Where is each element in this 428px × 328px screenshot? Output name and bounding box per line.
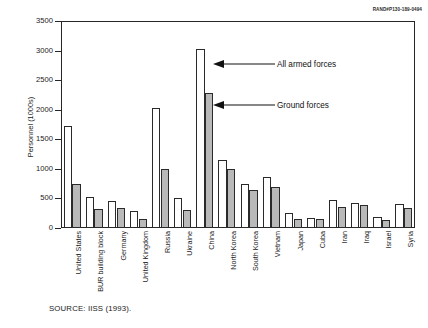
bar-ground-forces <box>271 187 279 228</box>
bar-all-armed-forces <box>64 126 72 228</box>
bar-ground-forces <box>205 93 213 228</box>
x-tick-label: United Kingdom <box>142 231 149 282</box>
y-tick-label: 3000 <box>36 47 53 55</box>
x-tick-label: China <box>208 231 215 250</box>
bar-ground-forces <box>139 219 147 228</box>
bar-ground-forces <box>183 210 191 228</box>
x-tick-label: Israel <box>385 231 392 249</box>
bar-group <box>285 21 302 228</box>
bar-ground-forces <box>382 220 390 228</box>
bar-group <box>395 21 412 228</box>
bar-all-armed-forces <box>351 203 359 228</box>
bar-ground-forces <box>404 208 412 228</box>
rand-document-id: RAND#P130-189-0494 <box>373 7 422 12</box>
bar-ground-forces <box>227 169 235 228</box>
x-tick-label: Syria <box>407 231 414 247</box>
x-axis-category-labels: United StatesBUR building blockGermanyUn… <box>61 231 415 301</box>
bar-group <box>130 21 147 228</box>
y-tick-label: 1500 <box>36 135 53 143</box>
bar-group <box>64 21 81 228</box>
bar-group <box>307 21 324 228</box>
annotation-ground-forces: Ground forces <box>277 101 329 110</box>
bar-all-armed-forces <box>395 204 403 228</box>
bar-all-armed-forces <box>218 160 226 228</box>
bar-ground-forces <box>316 219 324 228</box>
bar-ground-forces <box>161 169 169 228</box>
x-tick-label: South Korea <box>252 231 259 271</box>
bar-group <box>329 21 346 228</box>
y-tick-label: 1000 <box>36 165 53 173</box>
bar-all-armed-forces <box>285 213 293 228</box>
x-tick-label: Iran <box>341 231 348 243</box>
bar-all-armed-forces <box>307 218 315 228</box>
bar-all-armed-forces <box>196 49 204 228</box>
y-tick-label: 3500 <box>36 17 53 25</box>
bar-group <box>196 21 213 228</box>
bar-all-armed-forces <box>263 177 271 228</box>
x-tick-label: Japan <box>297 231 304 251</box>
bar-group <box>108 21 125 228</box>
bar-group <box>152 21 169 228</box>
bar-ground-forces <box>94 209 102 228</box>
bar-all-armed-forces <box>130 211 138 228</box>
bar-series-layer <box>61 21 415 228</box>
bar-group <box>373 21 390 228</box>
y-axis-tick-labels: 0500100015002000250030003500 <box>0 0 61 249</box>
y-tick-label: 500 <box>40 195 53 203</box>
x-tick-label: United States <box>75 231 82 274</box>
bar-ground-forces <box>72 184 80 228</box>
y-tick-label: 2500 <box>36 76 53 84</box>
bar-ground-forces <box>294 219 302 228</box>
bar-all-armed-forces <box>241 184 249 228</box>
y-tick-label: 2000 <box>36 106 53 114</box>
bar-group <box>241 21 258 228</box>
bar-group <box>174 21 191 228</box>
bar-all-armed-forces <box>373 217 381 228</box>
annotation-all-armed-forces: All armed forces <box>277 60 336 69</box>
bar-group <box>218 21 235 228</box>
bar-ground-forces <box>117 208 125 228</box>
bar-all-armed-forces <box>174 198 182 228</box>
bar-group <box>351 21 368 228</box>
x-tick-label: North Korea <box>230 231 237 270</box>
bar-group <box>86 21 103 228</box>
bar-all-armed-forces <box>108 201 116 228</box>
x-tick-label: Vietnam <box>274 231 281 257</box>
x-tick-label: BUR building block <box>97 231 104 292</box>
x-tick-label: Cuba <box>319 231 326 248</box>
x-tick-label: Iraq <box>363 231 370 243</box>
bar-group <box>263 21 280 228</box>
x-tick-label: Ukraine <box>186 231 193 256</box>
bar-all-armed-forces <box>86 197 94 228</box>
x-tick-label: Germany <box>120 231 127 261</box>
bar-all-armed-forces <box>152 108 160 228</box>
bar-ground-forces <box>360 205 368 228</box>
y-tick-label: 0 <box>49 224 53 232</box>
bar-ground-forces <box>338 207 346 228</box>
figure-container: RAND#P130-189-0494 Personnel (1000s) 050… <box>0 0 428 328</box>
source-note: SOURCE: IISS (1993). <box>49 304 131 313</box>
x-tick-label: Russia <box>164 231 171 253</box>
bar-ground-forces <box>249 190 257 228</box>
bar-all-armed-forces <box>329 200 337 228</box>
